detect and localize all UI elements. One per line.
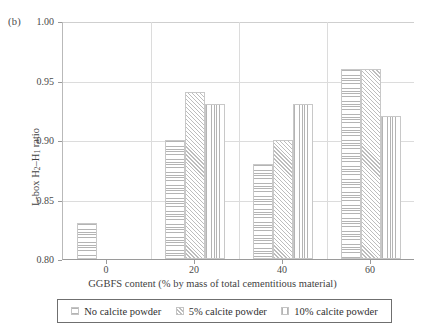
- legend-swatch-vertical: [281, 307, 289, 315]
- bar-20-horizontal: [165, 140, 185, 259]
- bar-60-horizontal: [341, 69, 361, 259]
- y-tick-label: 0.90: [20, 135, 54, 146]
- bar-20-vertical: [205, 104, 225, 259]
- y-tick-label: 0.95: [20, 76, 54, 87]
- figure-panel-b: (b) L-box H2–H1 ratio 1.000.950.900.850.…: [0, 0, 425, 333]
- bar-40-horizontal: [253, 164, 273, 259]
- y-tick-mark: [58, 82, 62, 83]
- legend-swatch-horizontal: [71, 307, 79, 315]
- gridline-vertical: [151, 22, 152, 259]
- bar-60-vertical: [381, 116, 401, 259]
- y-tick-mark: [58, 260, 62, 261]
- y-tick-label: 0.85: [20, 195, 54, 206]
- bar-40-diagonal: [273, 140, 293, 259]
- y-tick-label: 1.00: [20, 16, 54, 27]
- y-tick-label: 0.80: [20, 254, 54, 265]
- bar-60-diagonal: [361, 69, 381, 259]
- x-axis-title: GGBFS content (% by mass of total cement…: [0, 278, 425, 289]
- gridline-vertical: [239, 22, 240, 259]
- legend-entry: 5% calcite powder: [176, 306, 267, 317]
- y-axis-title: L-box H2–H1 ratio: [30, 67, 43, 267]
- y-axis-title-sub1: 2: [33, 166, 42, 170]
- x-tick-label: 40: [262, 264, 302, 275]
- panel-label: (b): [8, 16, 21, 27]
- legend-label: 5% calcite powder: [189, 306, 267, 317]
- x-tick-label: 0: [86, 264, 126, 275]
- legend-swatch-diagonal: [176, 307, 184, 315]
- bar-20-diagonal: [185, 92, 205, 259]
- bar-40-vertical: [293, 104, 313, 259]
- bar-0-horizontal: [77, 223, 97, 259]
- legend-label: 10% calcite powder: [294, 306, 377, 317]
- chart-legend: No calcite powder5% calcite powder10% ca…: [57, 299, 392, 323]
- legend-entry: 10% calcite powder: [281, 306, 377, 317]
- plot-area: [62, 22, 414, 260]
- y-tick-mark: [58, 141, 62, 142]
- y-tick-mark: [58, 22, 62, 23]
- legend-label: No calcite powder: [84, 306, 161, 317]
- x-tick-label: 60: [350, 264, 390, 275]
- gridline-vertical: [327, 22, 328, 259]
- x-tick-label: 20: [174, 264, 214, 275]
- y-tick-mark: [58, 201, 62, 202]
- legend-entry: No calcite powder: [71, 306, 161, 317]
- y-axis-title-dash: –H: [30, 153, 41, 166]
